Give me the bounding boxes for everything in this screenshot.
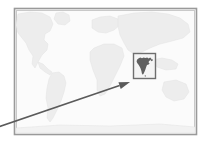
map-figure-svg bbox=[0, 0, 207, 147]
india-highlight-box[interactable] bbox=[134, 54, 156, 79]
map-figure bbox=[0, 0, 207, 147]
